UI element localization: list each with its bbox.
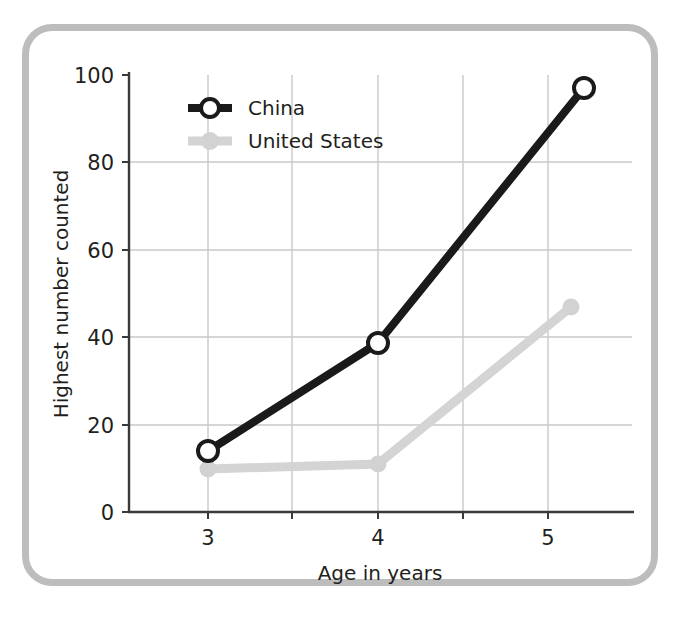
- line-chart: 100 80 60 40 20 0 3 4 5 Age in years Hig…: [0, 0, 700, 630]
- chart-figure: 100 80 60 40 20 0 3 4 5 Age in years Hig…: [0, 0, 700, 630]
- china-point-age-5: [574, 78, 594, 98]
- legend-label-china: China: [248, 96, 305, 120]
- us-point-age-3: [200, 461, 217, 478]
- x-tick-label-5: 5: [541, 526, 554, 550]
- y-tick-label-0: 0: [101, 501, 114, 525]
- y-axis-title: Highest number counted: [49, 170, 73, 419]
- y-tick-label-60: 60: [87, 239, 114, 263]
- x-axis-title: Age in years: [318, 561, 443, 585]
- x-tick-label-3: 3: [201, 526, 214, 550]
- x-tick-label-4: 4: [371, 526, 384, 550]
- y-tick-label-20: 20: [87, 414, 114, 438]
- y-tick-label-40: 40: [87, 326, 114, 350]
- y-tick-label-80: 80: [87, 151, 114, 175]
- legend-marker-united-states: [201, 132, 219, 150]
- legend-marker-china: [201, 99, 219, 117]
- legend-entry-china: China: [188, 96, 305, 120]
- y-tick-label-100: 100: [74, 64, 114, 88]
- china-point-age-4: [368, 333, 388, 353]
- legend-entry-united-states: United States: [188, 129, 383, 153]
- us-point-age-5: [563, 299, 580, 316]
- legend-label-united-states: United States: [248, 129, 383, 153]
- china-point-age-3: [198, 441, 218, 461]
- chart-legend: China United States: [188, 96, 383, 153]
- us-point-age-4: [370, 456, 387, 473]
